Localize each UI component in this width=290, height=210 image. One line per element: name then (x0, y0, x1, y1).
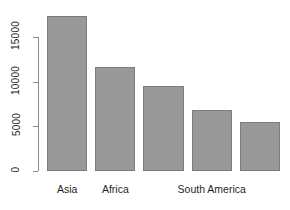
y-axis-tick-label-3: 15000 (11, 21, 22, 50)
x-axis-label-3: South America (178, 183, 246, 195)
bar-2 (143, 86, 183, 171)
y-axis-tick-3 (33, 37, 38, 38)
y-axis-tick-label-0: 0 (11, 167, 22, 173)
bar-0 (47, 16, 87, 171)
y-axis-tick-1 (33, 126, 38, 127)
y-axis-tick-2 (33, 82, 38, 83)
y-axis-tick-label-1: 5000 (11, 113, 22, 136)
plot-area (39, 0, 290, 210)
y-axis-tick-0 (33, 171, 38, 172)
y-axis-tick-label-2: 10000 (11, 66, 22, 95)
x-axis-label-0: Asia (57, 183, 77, 195)
bar-4 (240, 122, 280, 171)
bar-chart: 0 5000 10000 15000 Asia Africa South Ame… (0, 0, 290, 210)
x-axis-labels: Asia Africa South America (0, 183, 290, 203)
bar-3 (192, 110, 232, 171)
x-axis-label-1: Africa (102, 183, 129, 195)
bar-1 (95, 67, 135, 171)
